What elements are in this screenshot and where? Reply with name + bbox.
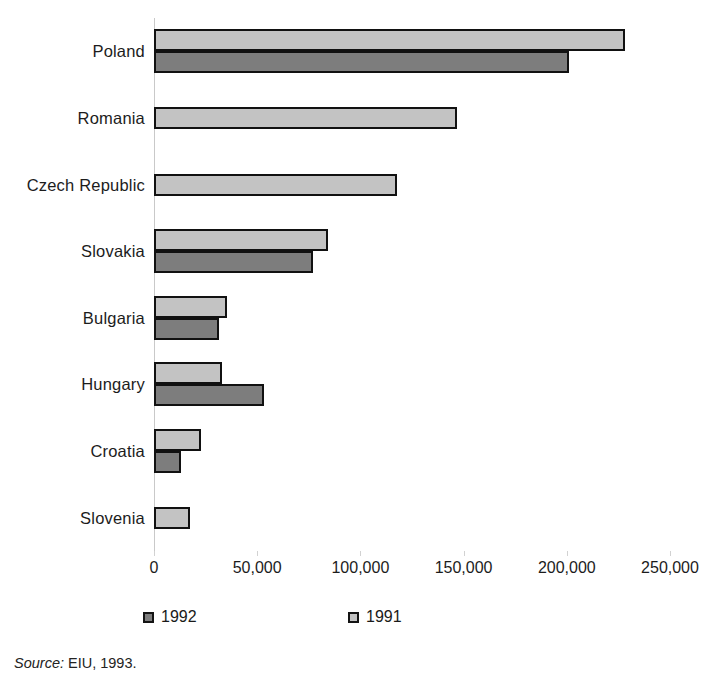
x-tick-mark bbox=[670, 551, 671, 556]
chart-legend: 19921991 bbox=[0, 608, 723, 634]
x-tick-mark bbox=[257, 551, 258, 556]
bar-1991 bbox=[154, 362, 222, 384]
x-tick-mark bbox=[154, 551, 155, 556]
x-tick-mark bbox=[464, 551, 465, 556]
category-label: Poland bbox=[92, 42, 145, 61]
x-tick-label: 150,000 bbox=[435, 559, 493, 577]
category-label: Slovakia bbox=[81, 242, 145, 261]
bar-1991 bbox=[154, 296, 227, 318]
bar-group bbox=[154, 174, 714, 196]
bar-group bbox=[154, 362, 714, 406]
bar-chart: PolandRomaniaCzech RepublicSlovakiaBulga… bbox=[0, 0, 723, 685]
legend-item-1991[interactable]: 1991 bbox=[348, 608, 402, 626]
category-label: Bulgaria bbox=[83, 308, 145, 327]
bar-1991 bbox=[154, 229, 328, 251]
category-label: Croatia bbox=[90, 442, 145, 461]
bar-1992 bbox=[154, 251, 313, 273]
bar-1992 bbox=[154, 51, 569, 73]
bar-1991 bbox=[154, 507, 190, 529]
x-tick-label: 100,000 bbox=[331, 559, 389, 577]
bar-group bbox=[154, 507, 714, 529]
bar-1991 bbox=[154, 107, 457, 129]
source-text: EIU, 1993. bbox=[64, 655, 137, 671]
category-row: Slovenia bbox=[0, 484, 723, 551]
legend-label: 1991 bbox=[366, 608, 402, 626]
bar-group bbox=[154, 107, 714, 129]
bar-1991 bbox=[154, 29, 625, 51]
legend-item-1992[interactable]: 1992 bbox=[143, 608, 197, 626]
x-tick-label: 50,000 bbox=[233, 559, 282, 577]
legend-label: 1992 bbox=[161, 608, 197, 626]
bar-group bbox=[154, 429, 714, 473]
bar-1992 bbox=[154, 318, 219, 340]
category-label: Hungary bbox=[81, 375, 145, 394]
legend-swatch-icon bbox=[143, 612, 154, 623]
plot-area: PolandRomaniaCzech RepublicSlovakiaBulga… bbox=[0, 18, 723, 551]
category-label: Czech Republic bbox=[27, 175, 145, 194]
category-row: Slovakia bbox=[0, 218, 723, 285]
x-axis: 050,000100,000150,000200,000250,000 bbox=[0, 551, 723, 581]
x-tick-label: 200,000 bbox=[538, 559, 596, 577]
source-label: Source: bbox=[14, 655, 64, 671]
source-note: Source: EIU, 1993. bbox=[14, 655, 137, 671]
category-row: Hungary bbox=[0, 351, 723, 418]
category-label: Romania bbox=[78, 108, 145, 127]
category-row: Croatia bbox=[0, 418, 723, 485]
bar-group bbox=[154, 296, 714, 340]
category-row: Romania bbox=[0, 85, 723, 152]
bar-1991 bbox=[154, 174, 397, 196]
bar-1992 bbox=[154, 384, 264, 406]
bar-1992 bbox=[154, 451, 181, 473]
category-row: Bulgaria bbox=[0, 285, 723, 352]
bar-group bbox=[154, 229, 714, 273]
category-row: Czech Republic bbox=[0, 151, 723, 218]
x-tick-mark bbox=[567, 551, 568, 556]
legend-swatch-icon bbox=[348, 612, 359, 623]
x-tick-label: 0 bbox=[150, 559, 159, 577]
bar-group bbox=[154, 29, 714, 73]
x-tick-label: 250,000 bbox=[641, 559, 699, 577]
category-row: Poland bbox=[0, 18, 723, 85]
category-label: Slovenia bbox=[80, 508, 145, 527]
x-tick-mark bbox=[360, 551, 361, 556]
bar-1991 bbox=[154, 429, 201, 451]
